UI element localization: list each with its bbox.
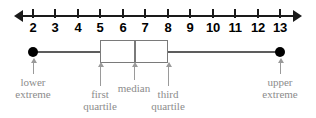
median-line [134, 40, 136, 63]
axis-tick-4 [77, 9, 79, 18]
axis-tick-10 [212, 9, 214, 18]
lower-extreme-dot [28, 47, 38, 57]
axis-tick-11 [234, 9, 236, 18]
upper-extreme-dot [275, 47, 285, 57]
callout-label-lower-extreme: lower extreme [0, 76, 68, 100]
axis-line [22, 15, 294, 17]
axis-tick-3 [54, 9, 56, 18]
axis-tick-2 [32, 9, 34, 18]
callout-arrow-median [134, 66, 135, 80]
upper-whisker [168, 51, 280, 53]
callout-arrow-upper-extreme [280, 62, 281, 74]
callout-arrow-first-quartile [100, 66, 101, 86]
callout-label-upper-extreme: upper extreme [245, 76, 315, 100]
axis-tick-13 [279, 9, 281, 18]
lower-whisker [33, 51, 100, 53]
callout-arrow-lower-extreme [33, 62, 34, 74]
axis-tick-8 [167, 9, 169, 18]
axis-tick-9 [189, 9, 191, 18]
box-and-whisker-figure: 2345678910111213 lower extremefirst quar… [0, 0, 316, 118]
axis-tick-7 [144, 9, 146, 18]
callout-arrow-third-quartile [168, 66, 169, 86]
callout-label-third-quartile: third quartile [138, 88, 198, 112]
axis-tick-label-13: 13 [265, 20, 295, 35]
axis-tick-6 [122, 9, 124, 18]
axis-tick-5 [99, 9, 101, 18]
axis-tick-12 [257, 9, 259, 18]
